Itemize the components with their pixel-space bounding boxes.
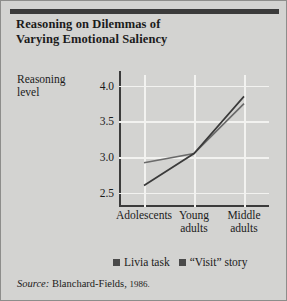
y-axis-label-line-2: level bbox=[17, 86, 97, 99]
x-tick-label-line: Young bbox=[179, 209, 209, 222]
legend-item-label: “Visit” story bbox=[190, 256, 248, 268]
figure-container: Reasoning on Dilemmas of Varying Emotion… bbox=[0, 0, 287, 301]
legend-item: “Visit” story bbox=[179, 256, 248, 268]
source-label: Source: bbox=[17, 278, 49, 289]
series-line bbox=[144, 96, 244, 185]
x-tick-label: Adolescents bbox=[116, 209, 172, 222]
y-tick-label: 3.0 bbox=[100, 151, 114, 163]
page-title: Reasoning on Dilemmas of Varying Emotion… bbox=[16, 17, 256, 46]
x-tick-label: Youngadults bbox=[179, 209, 209, 234]
title-line-2: Varying Emotional Saliency bbox=[16, 32, 256, 47]
x-tick-label-line: Middle bbox=[227, 209, 260, 222]
source-note: Source: Blanchard-Fields, 1986. bbox=[17, 278, 150, 289]
y-tick-label: 2.5 bbox=[100, 187, 114, 199]
legend-item-label: Livia task bbox=[124, 256, 170, 268]
title-rule bbox=[10, 9, 279, 14]
source-citation: Blanchard-Fields, bbox=[52, 278, 127, 289]
series-lines bbox=[119, 75, 269, 207]
title-line-1: Reasoning on Dilemmas of bbox=[16, 17, 256, 32]
legend-swatch-icon bbox=[179, 259, 186, 266]
y-axis-label: Reasoning level bbox=[17, 73, 97, 99]
legend-swatch-icon bbox=[113, 259, 120, 266]
chart-legend: Livia task“Visit” story bbox=[113, 256, 247, 268]
plot-area: 2.53.03.54.0 AdolescentsYoungadultsMiddl… bbox=[119, 75, 269, 207]
source-year: 1986. bbox=[129, 279, 149, 289]
y-tick-label: 4.0 bbox=[100, 80, 114, 92]
x-tick-label-line: adults bbox=[179, 222, 209, 235]
y-axis-label-line-1: Reasoning bbox=[17, 73, 97, 86]
legend-item: Livia task bbox=[113, 256, 170, 268]
x-tick-label: Middleadults bbox=[227, 209, 260, 234]
y-tick-label: 3.5 bbox=[100, 115, 114, 127]
x-tick-label-line: Adolescents bbox=[116, 209, 172, 222]
x-tick-label-line: adults bbox=[227, 222, 260, 235]
